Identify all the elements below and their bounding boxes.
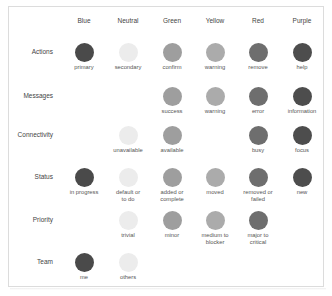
swatch-priority-neutral: trivial [106, 211, 150, 239]
column-header-neutral: Neutral [106, 17, 150, 24]
column-header-green: Green [150, 17, 194, 24]
swatch-caption: error [236, 108, 280, 115]
swatch-team-blue: me [62, 253, 106, 281]
swatch-priority-red: major to critical [236, 211, 280, 246]
row-label-actions: Actions [32, 48, 53, 55]
swatch-caption: in progress [62, 189, 106, 196]
swatch-messages-purple: information [280, 87, 324, 115]
swatch-caption: secondary [106, 64, 150, 71]
swatch-caption: trivial [106, 232, 150, 239]
swatch-caption: default or to do [106, 189, 150, 203]
swatch-connectivity-red: busy [236, 126, 280, 154]
swatch-status-neutral: default or to do [106, 168, 150, 203]
swatch-connectivity-purple: focus [280, 126, 324, 154]
swatch-caption: warning [193, 64, 237, 71]
swatch-caption: removed or failed [236, 189, 280, 203]
swatch-caption: medium to blocker [193, 232, 237, 246]
swatch-actions-green: confirm [150, 43, 194, 71]
row-label-connectivity: Connectivity [18, 131, 53, 138]
swatch-caption: new [280, 189, 324, 196]
color-dot-icon [293, 126, 312, 145]
swatch-caption: warning [193, 108, 237, 115]
color-dot-icon [206, 87, 225, 106]
swatch-caption: busy [236, 147, 280, 154]
swatch-priority-yellow: medium to blocker [193, 211, 237, 246]
column-header-blue: Blue [62, 17, 106, 24]
swatch-actions-yellow: warning [193, 43, 237, 71]
swatch-status-blue: in progress [62, 168, 106, 196]
color-dot-icon [119, 211, 138, 230]
swatch-caption: others [106, 274, 150, 281]
color-dot-icon [206, 43, 225, 62]
card-shadow [10, 288, 326, 290]
column-header-red: Red [236, 17, 280, 24]
swatch-caption: major to critical [236, 232, 280, 246]
swatch-caption: available [150, 147, 194, 154]
color-dot-icon [119, 253, 138, 272]
row-label-priority: Priority [33, 216, 53, 223]
swatch-messages-green: success [150, 87, 194, 115]
color-dot-icon [163, 168, 182, 187]
swatch-messages-red: error [236, 87, 280, 115]
color-dot-icon [293, 43, 312, 62]
swatch-actions-purple: help [280, 43, 324, 71]
swatch-caption: remove [236, 64, 280, 71]
color-dot-icon [119, 43, 138, 62]
color-dot-icon [75, 43, 94, 62]
swatch-status-green: added or complete [150, 168, 194, 203]
color-dot-icon [293, 87, 312, 106]
swatch-caption: focus [280, 147, 324, 154]
swatch-priority-green: minor [150, 211, 194, 239]
color-dot-icon [163, 211, 182, 230]
swatch-status-purple: new [280, 168, 324, 196]
swatch-team-neutral: others [106, 253, 150, 281]
swatch-messages-yellow: warning [193, 87, 237, 115]
swatch-actions-blue: primary [62, 43, 106, 71]
swatch-caption: primary [62, 64, 106, 71]
swatch-actions-neutral: secondary [106, 43, 150, 71]
swatch-connectivity-green: available [150, 126, 194, 154]
swatch-connectivity-neutral: unavailable [106, 126, 150, 154]
swatch-status-red: removed or failed [236, 168, 280, 203]
color-dot-icon [249, 43, 268, 62]
swatch-caption: me [62, 274, 106, 281]
row-label-status: Status [35, 173, 53, 180]
color-dot-icon [249, 211, 268, 230]
color-dot-icon [249, 126, 268, 145]
swatch-status-yellow: moved [193, 168, 237, 196]
swatch-caption: confirm [150, 64, 194, 71]
color-dot-icon [163, 126, 182, 145]
color-dot-icon [75, 253, 94, 272]
color-dot-icon [249, 168, 268, 187]
color-dot-icon [163, 43, 182, 62]
color-dot-icon [163, 87, 182, 106]
column-header-yellow: Yellow [193, 17, 237, 24]
row-label-messages: Messages [23, 92, 53, 99]
color-dot-icon [75, 168, 94, 187]
swatch-caption: moved [193, 189, 237, 196]
color-dot-icon [119, 126, 138, 145]
swatch-caption: help [280, 64, 324, 71]
row-label-team: Team [37, 258, 53, 265]
color-dot-icon [206, 168, 225, 187]
color-dot-icon [206, 211, 225, 230]
swatch-caption: success [150, 108, 194, 115]
swatch-caption: minor [150, 232, 194, 239]
column-header-purple: Purple [280, 17, 324, 24]
color-dot-icon [119, 168, 138, 187]
swatch-actions-red: remove [236, 43, 280, 71]
swatch-caption: added or complete [150, 189, 194, 203]
color-dot-icon [249, 87, 268, 106]
swatch-caption: unavailable [106, 147, 150, 154]
swatch-caption: information [280, 108, 324, 115]
color-dot-icon [293, 168, 312, 187]
